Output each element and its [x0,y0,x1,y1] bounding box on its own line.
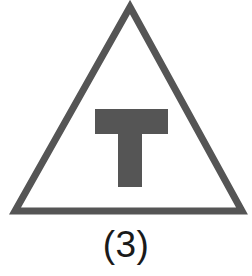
figure-container: (3) [0,0,252,276]
letter-t-icon [95,109,168,187]
figure-caption: (3) [0,223,252,267]
symbol-graphic [0,0,252,222]
